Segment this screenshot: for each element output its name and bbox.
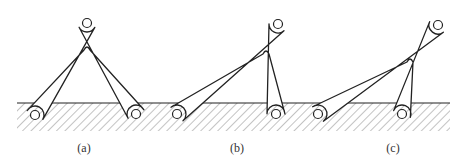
ground-hatch (17, 103, 450, 131)
linkage-panel-a: (a) (27, 19, 144, 156)
linkage-diagram: (a)(b)(c) (0, 0, 463, 163)
pivot-right-icon (398, 110, 407, 119)
pivot-left-icon (314, 110, 323, 119)
pivot-right-icon (272, 110, 281, 119)
linkage-panel-c: (c) (313, 21, 444, 156)
panel-label-c: (c) (386, 141, 399, 155)
pivot-left-icon (173, 110, 182, 119)
pivot-right-icon (132, 110, 141, 119)
panel-label-a: (a) (77, 141, 90, 155)
pivot-left-icon (31, 111, 40, 120)
pivot-top-icon (83, 19, 92, 28)
linkage-panels: (a)(b)(c) (27, 19, 443, 156)
linkage-panel-b: (b) (171, 20, 285, 156)
panel-label-b: (b) (230, 141, 244, 155)
pivot-top-icon (274, 20, 283, 29)
pivot-top-icon (434, 21, 443, 30)
ground-hatching (17, 103, 450, 131)
